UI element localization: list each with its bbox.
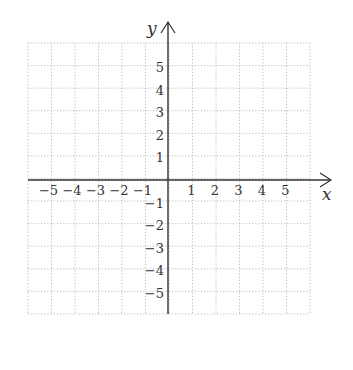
y-axis-label: y	[146, 18, 157, 38]
y-tick-label: 3	[156, 105, 164, 120]
x-tick-label: −4	[62, 183, 81, 198]
y-tick-label: 4	[156, 83, 164, 98]
y-tick-label: −3	[145, 241, 164, 256]
x-tick-label: −2	[109, 183, 128, 198]
y-tick-label: −5	[145, 286, 164, 301]
y-tick-label: −2	[145, 218, 164, 233]
x-tick-label: 1	[187, 183, 195, 198]
grid-lines	[28, 43, 310, 314]
y-tick-label: 1	[156, 150, 164, 165]
x-tick-label: −3	[86, 183, 105, 198]
x-tick-label: 3	[234, 183, 242, 198]
y-tick-label: 5	[156, 60, 164, 75]
x-tick-label: −5	[39, 183, 58, 198]
x-tick-label: 5	[281, 183, 289, 198]
y-tick-label: −4	[145, 263, 164, 278]
x-tick-label: 2	[211, 183, 219, 198]
coordinate-plane: x y −5−4−3−2−112345 54321−1−2−3−4−5	[0, 0, 353, 370]
x-axis-label: x	[322, 184, 332, 204]
x-tick-label: 4	[258, 183, 266, 198]
x-tick-labels: −5−4−3−2−112345	[39, 183, 290, 198]
y-tick-label: −1	[145, 196, 164, 211]
y-tick-label: 2	[156, 128, 164, 143]
